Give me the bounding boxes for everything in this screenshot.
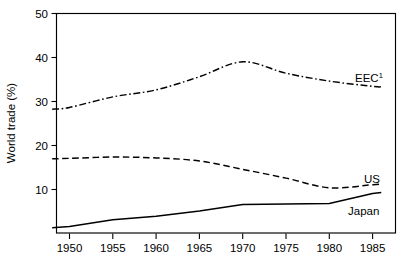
series-label-us: US xyxy=(364,173,380,185)
y-axis-ticks xyxy=(52,14,57,190)
series-line-japan xyxy=(52,193,381,228)
y-axis-tick-labels: 50 40 30 20 10 xyxy=(35,8,48,196)
series-line-eec xyxy=(52,62,381,109)
x-tick-label-1970: 1970 xyxy=(230,242,256,254)
x-tick-label-1975: 1975 xyxy=(273,242,299,254)
x-tick-label-1985: 1985 xyxy=(360,242,386,254)
x-tick-label-1950: 1950 xyxy=(57,242,83,254)
y-axis-title: World trade (%) xyxy=(5,83,17,163)
y-tick-label-40: 40 xyxy=(35,52,48,64)
series-line-us xyxy=(52,157,381,188)
x-tick-label-1980: 1980 xyxy=(317,242,343,254)
y-tick-label-20: 20 xyxy=(35,140,48,152)
y-tick-label-30: 30 xyxy=(35,96,48,108)
x-tick-label-1960: 1960 xyxy=(143,242,169,254)
chart-container: 50 40 30 20 10 World trade (%) 1950 1955… xyxy=(0,0,409,270)
x-axis-ticks xyxy=(70,234,373,240)
x-axis-tick-labels: 1950 1955 1960 1965 1970 1975 1980 1985 xyxy=(57,242,386,254)
line-chart: 50 40 30 20 10 World trade (%) 1950 1955… xyxy=(0,0,409,270)
data-series-group xyxy=(52,62,381,228)
series-label-japan: Japan xyxy=(348,205,379,217)
y-tick-label-10: 10 xyxy=(35,184,48,196)
x-tick-label-1955: 1955 xyxy=(100,242,126,254)
y-tick-label-50: 50 xyxy=(35,8,48,20)
series-label-eec: EEC1 xyxy=(355,71,383,84)
x-tick-label-1965: 1965 xyxy=(187,242,213,254)
